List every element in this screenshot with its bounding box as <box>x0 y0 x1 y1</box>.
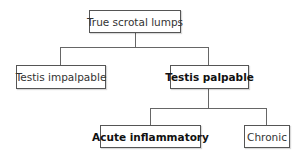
node-label: Chronic <box>247 131 287 143</box>
node-label: Testis palpable <box>165 71 254 83</box>
node-true-scrotal-lumps: True scrotal lumps <box>89 10 181 33</box>
connector-level2-horizontal <box>150 108 267 109</box>
connector-to-palpable <box>208 47 209 65</box>
node-testis-impalpable: Testis impalpable <box>16 65 106 89</box>
connector-root-down <box>135 32 136 48</box>
node-label: Acute inflammatory <box>92 131 209 143</box>
node-label: True scrotal lumps <box>87 16 183 28</box>
connector-to-chronic <box>266 108 267 125</box>
connector-to-acute <box>150 108 151 125</box>
connector-to-impalpable <box>60 47 61 65</box>
connector-level1-horizontal <box>60 47 209 48</box>
connector-palpable-down <box>208 88 209 109</box>
node-chronic: Chronic <box>244 125 290 148</box>
node-label: Testis impalpable <box>16 71 107 83</box>
node-testis-palpable: Testis palpable <box>170 65 249 89</box>
node-acute-inflammatory: Acute inflammatory <box>100 125 201 148</box>
